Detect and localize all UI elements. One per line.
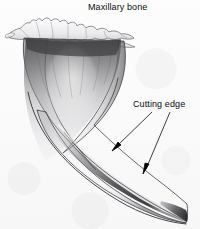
tooth-body — [23, 38, 187, 224]
leader-lines — [112, 112, 170, 174]
label-maxillary-bone: Maxillary bone — [88, 2, 147, 13]
leader-lower — [143, 112, 170, 174]
leader-upper — [112, 112, 152, 151]
tooth-illustration — [0, 0, 200, 229]
label-cutting-edge: Cutting edge — [133, 99, 185, 110]
figure-container: Maxillary bone Cutting edge — [0, 0, 200, 229]
